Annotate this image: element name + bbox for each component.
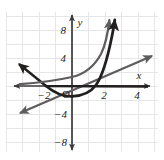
y-axis-label: y [77, 16, 83, 28]
graph-screenshot: −2 2 4 8 4 −4 −8 x y O [0, 0, 164, 160]
y-tick-label-8: 8 [61, 24, 67, 36]
x-tick-label-minus2: −2 [38, 89, 51, 101]
x-tick-label-2: 2 [101, 89, 107, 101]
coordinate-plane-figure: −2 2 4 8 4 −4 −8 x y O [0, 0, 164, 160]
y-tick-label-minus8: −8 [54, 136, 67, 148]
y-tick-label-minus4: −4 [54, 108, 67, 120]
y-tick-label-4: 4 [61, 52, 67, 64]
x-tick-label-4: 4 [134, 89, 140, 101]
origin-label: O [62, 88, 70, 100]
x-axis-label: x [136, 69, 142, 81]
